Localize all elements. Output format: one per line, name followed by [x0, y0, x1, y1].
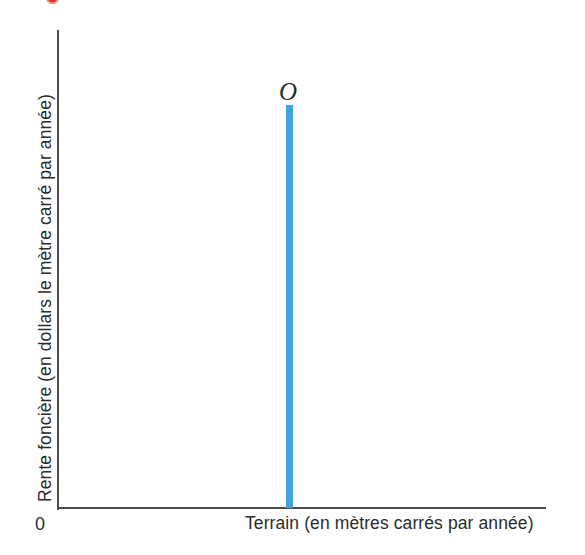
origin-label: 0	[35, 509, 45, 539]
plot-area	[58, 30, 545, 508]
red-bullet-marker	[46, 0, 59, 4]
x-axis-title: Terrain (en mètres carrés par année)	[245, 508, 534, 538]
supply-curve-label: O	[279, 79, 297, 104]
y-axis-title: Rente foncière (en dollars le mètre carr…	[30, 24, 60, 502]
supply-curve-line	[286, 105, 293, 508]
chart-figure: O Rente foncière (en dollars le mètre ca…	[0, 0, 585, 555]
